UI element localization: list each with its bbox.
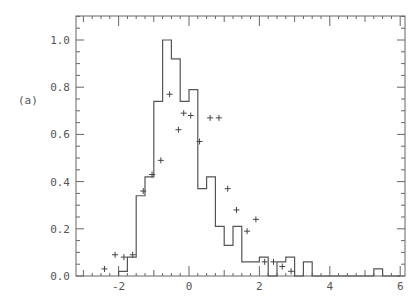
data-point-marker [279, 264, 285, 270]
y-tick-label: 1.0 [50, 34, 70, 47]
x-tick-label: 6 [397, 280, 404, 293]
data-point-marker [244, 228, 250, 234]
data-point-marker [225, 186, 231, 192]
data-point-marker [253, 216, 259, 222]
data-point-marker [262, 259, 268, 265]
data-point-marker [216, 115, 222, 121]
y-tick-label: 0.0 [50, 270, 70, 283]
data-point-marker [121, 254, 127, 260]
x-tick-label: -2 [112, 280, 125, 293]
plot-frame [76, 16, 405, 276]
data-point-marker [207, 115, 213, 121]
data-point-marker [288, 268, 294, 274]
data-point-marker [112, 252, 118, 258]
data-point-marker [181, 110, 187, 116]
x-tick-label: 0 [186, 280, 193, 293]
y-tick-label: 0.6 [50, 128, 70, 141]
data-point-marker [270, 259, 276, 265]
data-point-marker [234, 207, 240, 213]
histogram-plot: 0.00.20.40.60.81.0-20246 [0, 0, 414, 296]
x-tick-label: 4 [326, 280, 333, 293]
data-point-marker [158, 157, 164, 163]
x-tick-label: 2 [256, 280, 263, 293]
y-tick-label: 0.4 [50, 176, 70, 189]
y-tick-label: 0.2 [50, 223, 70, 236]
data-point-marker [188, 113, 194, 119]
data-point-marker [167, 91, 173, 97]
data-point-marker [102, 266, 108, 272]
y-tick-label: 0.8 [50, 81, 70, 94]
chart-container: (a) 0.00.20.40.60.81.0-20246 [0, 0, 414, 296]
data-point-marker [175, 127, 181, 133]
